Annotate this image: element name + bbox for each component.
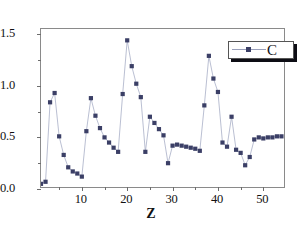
data-point-marker <box>243 163 247 167</box>
x-axis-tick <box>173 187 174 191</box>
data-point-marker <box>161 133 165 137</box>
data-point-marker <box>125 38 129 42</box>
data-point-marker <box>157 127 161 131</box>
data-point-marker <box>71 169 75 173</box>
data-point-marker <box>80 175 84 179</box>
data-point-marker <box>116 150 120 154</box>
data-point-marker <box>107 140 111 144</box>
y-axis-tick <box>37 137 41 138</box>
y-axis-tick-label: 1.0 <box>0 77 15 92</box>
data-point-marker <box>148 115 152 119</box>
data-point-marker <box>111 146 115 150</box>
y-axis-tick <box>37 189 41 190</box>
x-axis-tick-label: 50 <box>256 192 268 207</box>
data-point-marker <box>84 129 88 133</box>
data-point-marker <box>202 103 206 107</box>
legend-box: C <box>228 41 294 59</box>
legend-sample-line-marker <box>232 44 266 56</box>
data-point-marker <box>198 149 202 153</box>
data-point-marker <box>220 140 224 144</box>
y-axis-tick <box>37 34 41 35</box>
data-point-marker <box>66 165 70 169</box>
data-point-marker <box>239 151 243 155</box>
x-axis-minor-tick <box>241 187 242 190</box>
data-point-marker <box>211 76 215 80</box>
data-point-marker <box>41 182 43 186</box>
y-axis-minor-tick <box>38 112 41 113</box>
data-point-marker <box>252 137 256 141</box>
x-axis-title: Z <box>0 206 302 222</box>
x-axis-minor-tick <box>105 187 106 190</box>
data-point-marker <box>175 143 179 147</box>
x-axis-tick <box>82 187 83 191</box>
data-point-marker <box>139 95 143 99</box>
data-point-marker <box>216 90 220 94</box>
data-point-marker <box>75 171 79 175</box>
data-point-marker <box>102 135 106 139</box>
data-point-marker <box>248 155 252 159</box>
data-point-marker <box>130 64 134 68</box>
data-point-marker <box>93 114 97 118</box>
chart-figure: Z C 0.00.51.01.51020304050 <box>0 0 302 238</box>
legend-square-marker-icon <box>246 47 251 52</box>
x-axis-tick-label: 30 <box>166 192 178 207</box>
data-point-marker <box>62 153 66 157</box>
data-point-marker <box>57 134 61 138</box>
x-axis-minor-tick <box>195 187 196 190</box>
data-point-marker <box>225 145 229 149</box>
data-point-marker <box>43 180 47 184</box>
y-axis-tick-label: 0.0 <box>0 181 15 196</box>
y-axis-minor-tick <box>38 163 41 164</box>
data-point-marker <box>48 100 52 104</box>
data-point-marker <box>207 54 211 58</box>
data-point-marker <box>152 121 156 125</box>
data-point-marker <box>53 91 57 95</box>
data-point-marker <box>189 146 193 150</box>
x-axis-tick <box>263 187 264 191</box>
data-point-marker <box>98 126 102 130</box>
x-axis-tick-label: 40 <box>211 192 223 207</box>
data-point-marker <box>229 115 233 119</box>
y-axis-tick-label: 1.5 <box>0 26 15 41</box>
data-point-marker <box>170 144 174 148</box>
data-point-marker <box>266 135 270 139</box>
x-axis-tick-label: 20 <box>120 192 132 207</box>
data-point-marker <box>261 136 265 140</box>
y-axis-minor-tick <box>38 60 41 61</box>
legend-label-c: C <box>267 43 277 58</box>
data-point-marker <box>121 92 125 96</box>
x-axis-minor-tick <box>59 187 60 190</box>
data-point-marker <box>166 161 170 165</box>
data-point-marker <box>184 145 188 149</box>
x-axis-minor-tick <box>150 187 151 190</box>
data-point-marker <box>193 147 197 151</box>
data-point-marker <box>134 82 138 86</box>
x-axis-tick-label: 10 <box>75 192 87 207</box>
data-point-marker <box>89 96 93 100</box>
data-point-marker <box>257 135 261 139</box>
x-axis-tick <box>127 187 128 191</box>
data-point-marker <box>270 135 274 139</box>
x-axis-tick <box>218 187 219 191</box>
data-point-marker <box>275 134 279 138</box>
data-point-marker <box>279 134 283 138</box>
chart-legend: C <box>228 41 296 61</box>
y-axis-tick-label: 0.5 <box>0 129 15 144</box>
y-axis-tick <box>37 86 41 87</box>
data-point-marker <box>180 144 184 148</box>
data-point-marker <box>234 148 238 152</box>
data-point-marker <box>143 150 147 154</box>
